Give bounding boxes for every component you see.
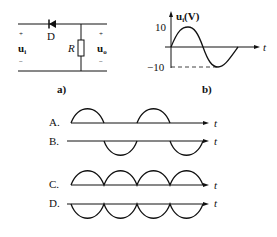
- arrow-icon: [203, 202, 209, 206]
- option-b[interactable]: B. t: [49, 135, 218, 155]
- option-a[interactable]: A. t: [49, 109, 218, 129]
- option-d-letter: D.: [49, 197, 60, 209]
- arrow-icon: [203, 121, 209, 125]
- x-axis-arrow-icon: [254, 45, 260, 49]
- caption-b: b): [202, 83, 212, 96]
- circuit-diagram: D R + ui − + uo − a): [18, 20, 107, 97]
- y-axis-label: ui(V): [176, 10, 200, 24]
- output-voltage-label: uo: [97, 42, 107, 56]
- option-b-t: t: [214, 135, 218, 147]
- option-b-letter: B.: [49, 135, 59, 147]
- option-c-letter: C.: [49, 178, 59, 190]
- input-minus: −: [19, 58, 23, 66]
- diode-icon: [49, 20, 56, 29]
- tick-10: 10: [155, 21, 167, 33]
- option-a-letter: A.: [49, 116, 60, 128]
- arrow-icon: [203, 139, 209, 143]
- resistor-icon: [78, 40, 84, 56]
- y-axis-arrow-icon: [169, 11, 173, 17]
- output-minus: −: [99, 58, 103, 66]
- option-c-t: t: [214, 179, 218, 191]
- tick-minus-10: −10: [147, 61, 165, 73]
- arrow-icon: [203, 183, 209, 187]
- option-c[interactable]: C. t: [49, 171, 218, 191]
- option-d-t: t: [214, 197, 218, 209]
- resistor-label: R: [67, 42, 75, 54]
- option-d[interactable]: D. t: [49, 197, 218, 218]
- input-voltage-label: ui: [18, 42, 26, 56]
- input-waveform: ui(V) 10 −10 t b): [147, 10, 267, 96]
- output-plus: +: [99, 30, 103, 38]
- option-a-t: t: [214, 117, 218, 129]
- diode-label: D: [47, 30, 55, 42]
- input-plus: +: [19, 30, 23, 38]
- x-axis-label: t: [263, 41, 267, 53]
- caption-a: a): [57, 83, 67, 96]
